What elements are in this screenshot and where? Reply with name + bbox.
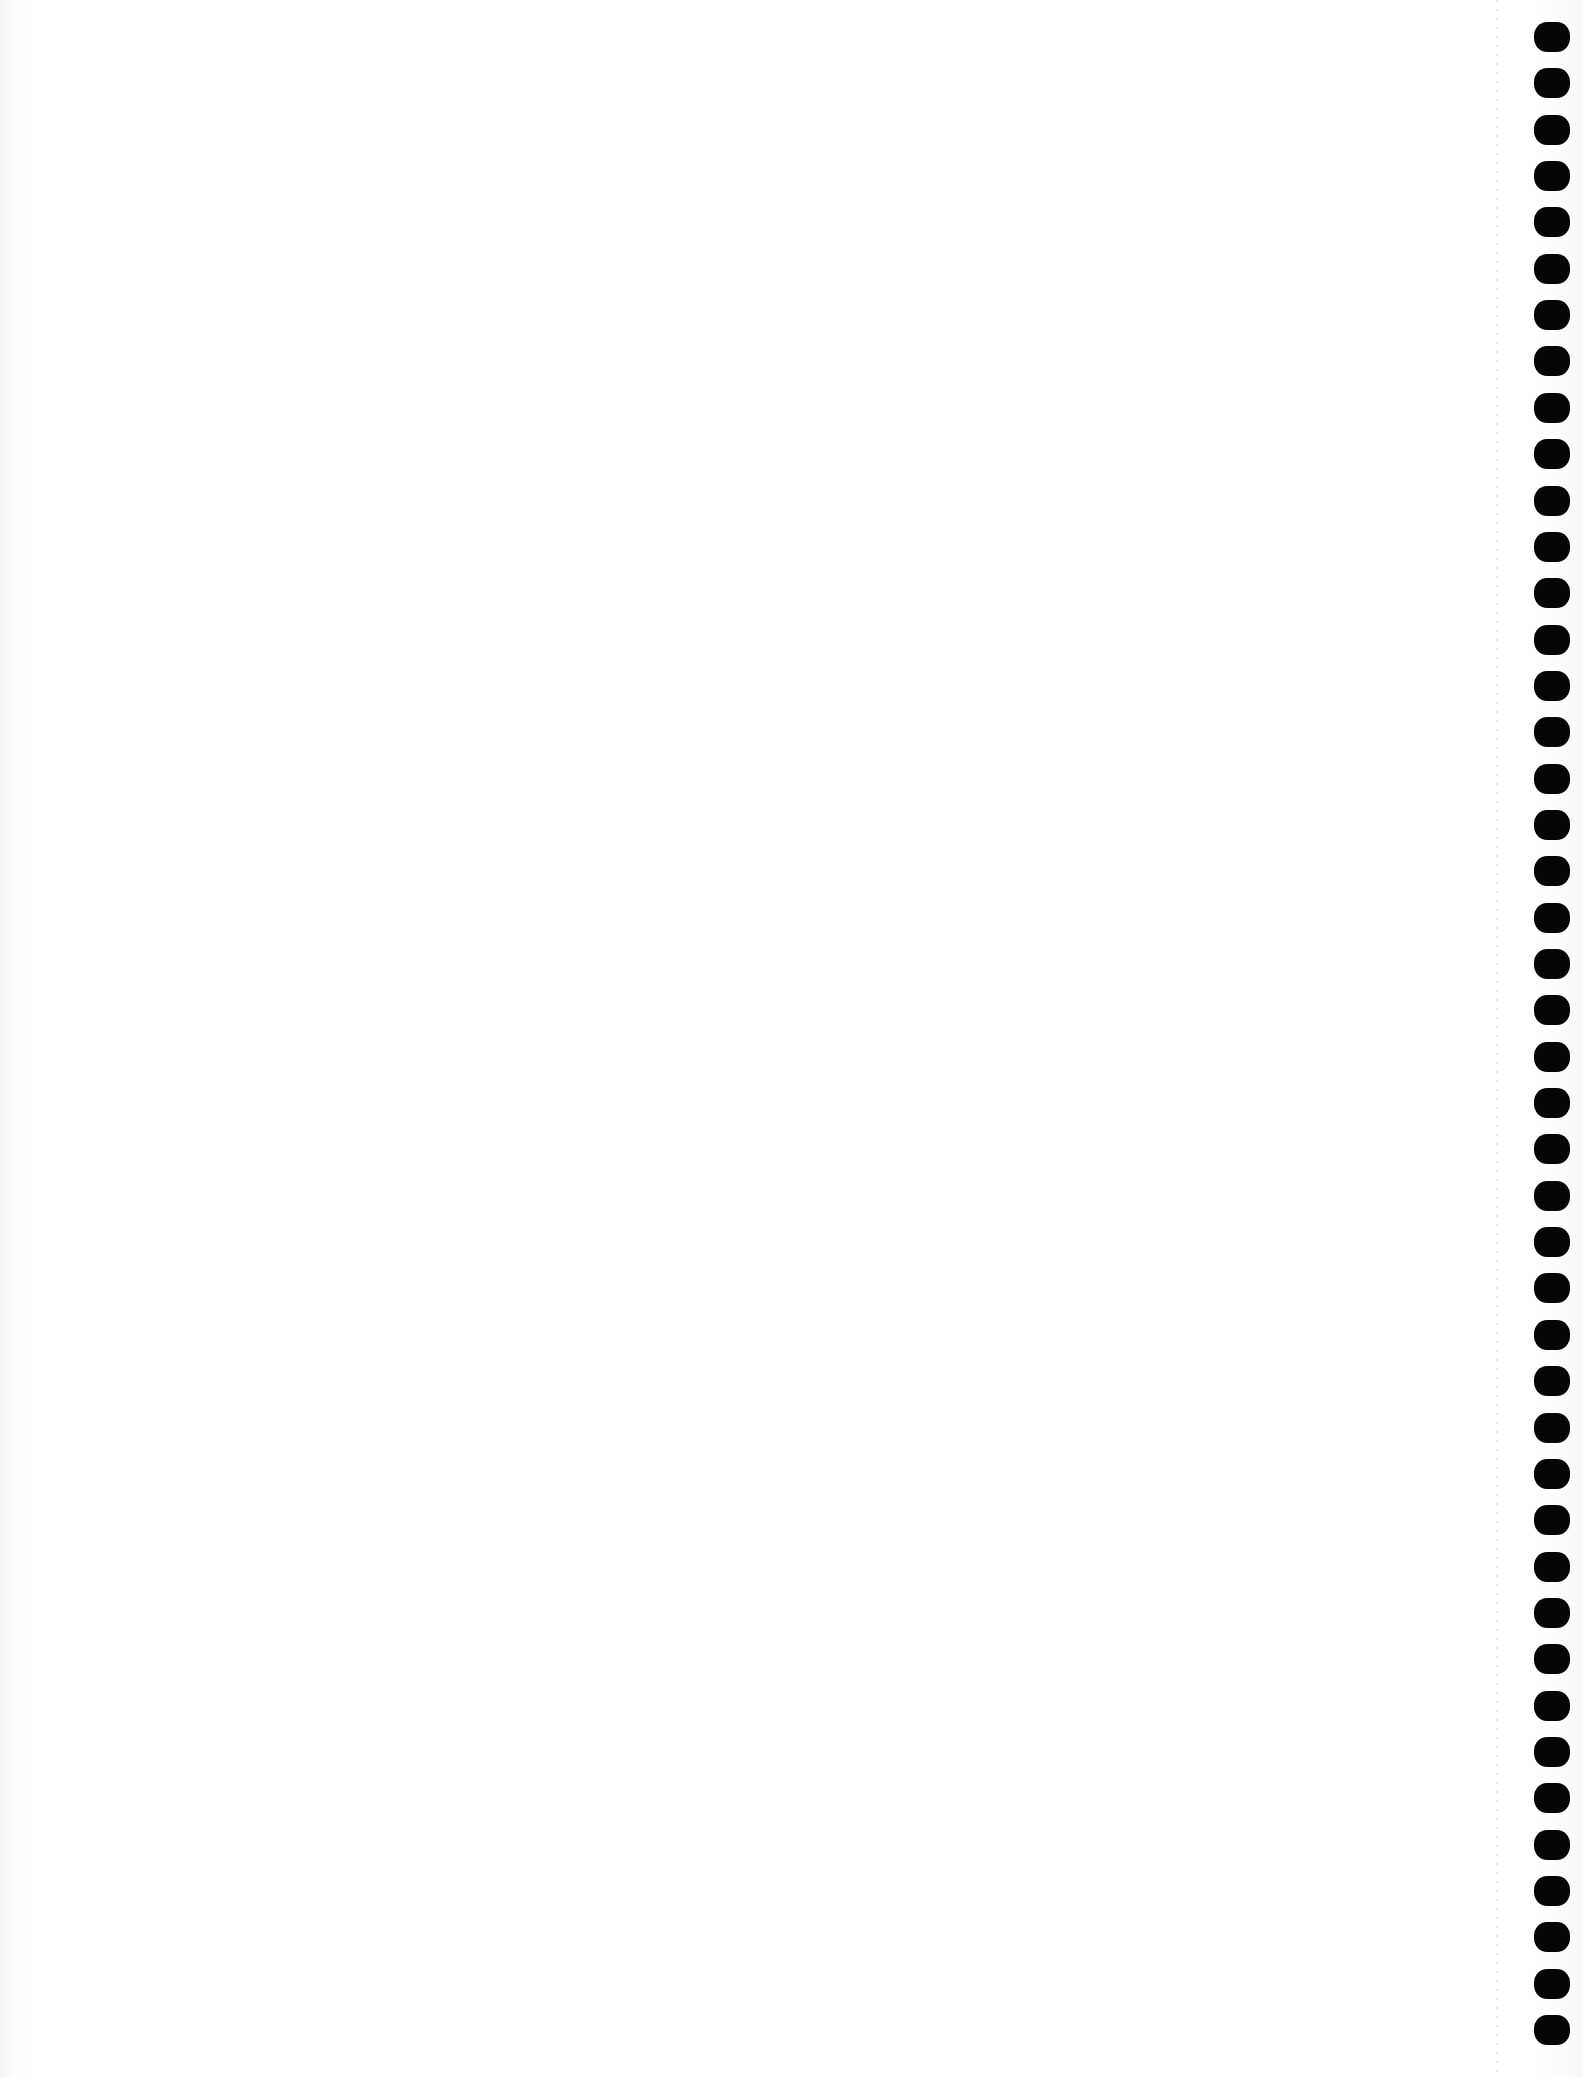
binding-hole xyxy=(1534,1876,1570,1906)
binding-hole xyxy=(1534,1598,1570,1628)
binding-hole xyxy=(1534,578,1570,608)
binding-hole xyxy=(1534,903,1570,933)
binding-hole xyxy=(1534,1505,1570,1535)
binding-hole xyxy=(1534,254,1570,284)
binding-hole xyxy=(1534,2015,1570,2045)
binding-hole xyxy=(1534,856,1570,886)
binding-hole xyxy=(1534,1737,1570,1767)
binding-hole xyxy=(1534,1922,1570,1952)
binding-hole xyxy=(1534,486,1570,516)
binding-hole xyxy=(1534,161,1570,191)
binding-hole xyxy=(1534,1366,1570,1396)
binding-hole xyxy=(1534,68,1570,98)
binding-hole xyxy=(1534,22,1570,52)
binding-hole xyxy=(1534,810,1570,840)
perforation-line xyxy=(1496,0,1498,2077)
binding-hole xyxy=(1534,1088,1570,1118)
binding-hole xyxy=(1534,1969,1570,1999)
binding-hole xyxy=(1534,1691,1570,1721)
binding-hole xyxy=(1534,1783,1570,1813)
binding-hole xyxy=(1534,625,1570,655)
binding-hole xyxy=(1534,300,1570,330)
binding-hole xyxy=(1534,764,1570,794)
binding-hole xyxy=(1534,439,1570,469)
binding-hole xyxy=(1534,1644,1570,1674)
binding-hole xyxy=(1534,115,1570,145)
binding-hole xyxy=(1534,1134,1570,1164)
blank-scanned-page xyxy=(0,0,1583,2077)
binding-hole xyxy=(1534,346,1570,376)
binding-hole xyxy=(1534,717,1570,747)
binding-hole xyxy=(1534,1413,1570,1443)
binding-hole xyxy=(1534,532,1570,562)
binding-hole xyxy=(1534,1459,1570,1489)
binding-hole xyxy=(1534,1181,1570,1211)
binding-hole xyxy=(1534,1552,1570,1582)
binding-hole xyxy=(1534,1830,1570,1860)
binding-holes-column xyxy=(1534,0,1574,2077)
binding-hole xyxy=(1534,995,1570,1025)
binding-hole xyxy=(1534,1227,1570,1257)
binding-hole xyxy=(1534,949,1570,979)
binding-hole xyxy=(1534,1273,1570,1303)
binding-hole xyxy=(1534,671,1570,701)
binding-hole xyxy=(1534,1042,1570,1072)
binding-hole xyxy=(1534,207,1570,237)
binding-hole xyxy=(1534,393,1570,423)
binding-hole xyxy=(1534,1320,1570,1350)
